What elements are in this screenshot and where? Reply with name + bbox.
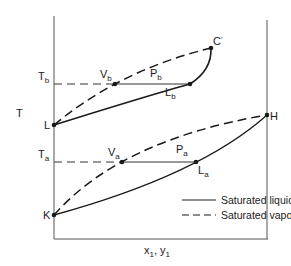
- point-H: [265, 113, 270, 118]
- point-V-a: [120, 160, 125, 165]
- points: [52, 46, 270, 218]
- point-K: [52, 213, 57, 218]
- label-V-b: Vb: [100, 68, 112, 83]
- point-L-b: [188, 82, 193, 87]
- label-P-a: Pa: [176, 143, 188, 158]
- saturated-vapor-curve-upper: [54, 48, 211, 125]
- label-H: H: [270, 110, 278, 122]
- saturated-liquid-curve-upper: [54, 48, 211, 125]
- label-T-a: Ta: [38, 148, 50, 163]
- legend-label-vapor: Saturated vapor: [221, 209, 291, 221]
- point-L: [52, 123, 57, 128]
- x-axis-label: x1, y1: [144, 244, 171, 259]
- label-C-prime: C': [213, 35, 223, 47]
- label-L-a: La: [198, 164, 209, 179]
- label-T-b: Tb: [38, 70, 50, 85]
- label-V-a: Va: [108, 146, 120, 161]
- point-V-b: [113, 82, 118, 87]
- label-L: L: [44, 119, 50, 131]
- label-K: K: [43, 209, 51, 221]
- phase-diagram: T Tb Ta L K H C' Vb Pb Lb Va Pa La Satur…: [0, 0, 291, 266]
- label-P-b: Pb: [150, 67, 162, 82]
- legend-label-liquid: Saturated liquid: [221, 194, 291, 206]
- legend: Saturated liquid Saturated vapor: [182, 194, 291, 221]
- y-axis-label: T: [16, 107, 23, 119]
